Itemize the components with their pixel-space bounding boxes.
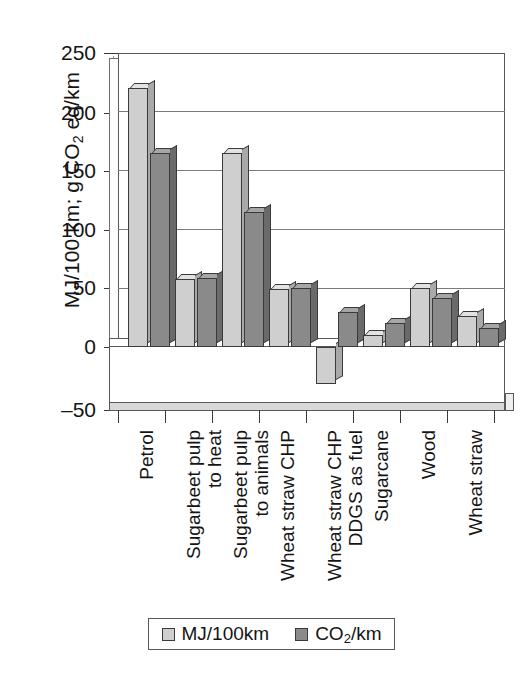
x-label-sugarcane: Sugarcane — [371, 430, 392, 620]
legend-label-mj: MJ/100km — [182, 623, 270, 645]
legend-item-co2: CO2/km — [295, 623, 381, 645]
legend-label-co2: CO2/km — [315, 623, 381, 645]
legend-swatch-light-icon — [162, 628, 175, 641]
legend-swatch-dark-icon — [295, 628, 308, 641]
legend-item-mj: MJ/100km — [162, 623, 270, 645]
x-label-wheat-straw-ddgs: Wheat straw CHP DDGS as fuel — [324, 430, 366, 620]
x-label-sugarbeet-heat: Sugarbeet pulp to heat — [183, 430, 225, 620]
x-label-wood: Wood — [418, 430, 439, 620]
chart-legend: MJ/100km CO2/km — [148, 618, 395, 650]
x-axis-category-labels: Petrol Sugarbeet pulp to heat Sugarbeet … — [0, 0, 522, 696]
x-label-wheat-straw-chp: Wheat straw CHP — [277, 430, 298, 620]
x-label-petrol: Petrol — [136, 430, 157, 620]
x-label-sugarbeet-animals: Sugarbeet pulp to animals — [230, 430, 272, 620]
bar-chart-figure: MJ/100 km; g CO2 eq/km 250 200 150 100 5… — [0, 0, 522, 696]
x-label-wheat-straw: Wheat straw — [465, 430, 486, 620]
